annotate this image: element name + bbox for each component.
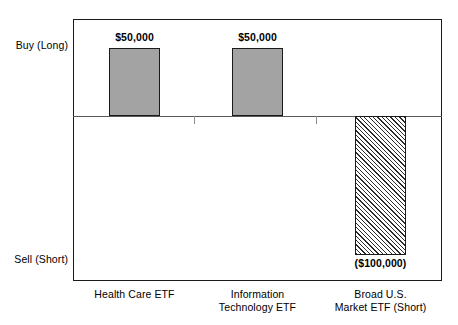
category-label-line-1: Information <box>207 288 308 301</box>
category-label-health-care-etf: Health Care ETF <box>84 288 185 301</box>
bar-information-technology-etf <box>232 48 283 117</box>
axis-tick-2 <box>316 116 317 124</box>
category-label-line-1: Broad U.S. <box>330 288 431 301</box>
bar-value-label-health-care-etf: $50,000 <box>84 31 185 43</box>
axis-tick-1 <box>194 116 195 124</box>
bar-value-label-information-technology-etf: $50,000 <box>207 31 308 43</box>
axis-label-buy-long: Buy (Long) <box>0 39 73 51</box>
bar-chart: Buy (Long) Sell (Short) $50,000 Health C… <box>0 0 458 325</box>
bar-health-care-etf <box>109 48 160 117</box>
axis-label-sell-short: Sell (Short) <box>0 253 73 265</box>
category-label-line-2: Technology ETF <box>207 301 308 314</box>
category-label-information-technology-etf: Information Technology ETF <box>207 288 308 313</box>
category-label-broad-us-market-etf-short: Broad U.S. Market ETF (Short) <box>330 288 431 313</box>
category-label-line-2: Market ETF (Short) <box>330 301 431 314</box>
bar-broad-us-market-etf-short <box>355 116 406 255</box>
category-label-line-1: Health Care ETF <box>84 288 185 301</box>
bar-value-label-broad-us-market-etf-short: ($100,000) <box>330 257 431 269</box>
